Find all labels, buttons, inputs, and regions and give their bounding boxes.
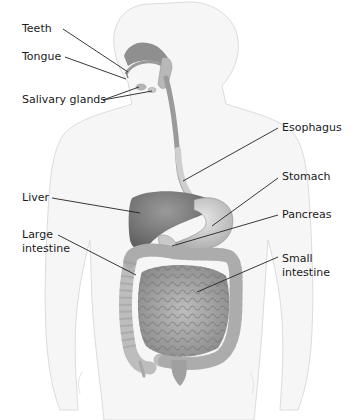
digestive-system-diagram: Teeth Tongue Salivary glands Esophagus S…	[0, 0, 358, 420]
label-large-intestine-line2: intestine	[22, 242, 70, 256]
label-salivary-glands: Salivary glands	[22, 93, 106, 107]
label-liver: Liver	[22, 191, 49, 205]
label-small-intestine-line1: Small	[282, 252, 330, 266]
label-pancreas: Pancreas	[282, 208, 331, 222]
label-small-intestine-line2: intestine	[282, 266, 330, 280]
small-intestine	[138, 265, 229, 357]
label-large-intestine: Large intestine	[22, 228, 70, 256]
label-esophagus: Esophagus	[282, 121, 342, 135]
label-large-intestine-line1: Large	[22, 228, 70, 242]
label-stomach: Stomach	[282, 170, 331, 184]
label-tongue: Tongue	[22, 50, 61, 64]
label-teeth: Teeth	[22, 22, 52, 36]
label-small-intestine: Small intestine	[282, 252, 330, 280]
